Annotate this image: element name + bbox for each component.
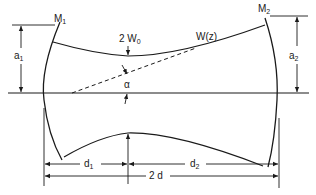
mirror-m1-label: M1	[54, 13, 66, 25]
resonator-diagram: M1 M2 a1 a2 2 W0 W(z) α d1 d2 2 d	[0, 0, 316, 195]
mirror-m2-label: M2	[258, 3, 270, 15]
waist-label: 2 W0	[119, 33, 141, 45]
beam-radius-label: W(z)	[196, 31, 217, 42]
beam-envelope-upper	[53, 25, 265, 56]
angle-arrow-upper	[122, 65, 127, 74]
a1-label: a1	[14, 50, 24, 62]
angle-alpha-label: α	[124, 79, 130, 90]
asymptote-line	[72, 48, 196, 93]
a2-label: a2	[289, 50, 299, 62]
d2-label: d2	[190, 158, 200, 170]
beam-envelope-lower	[64, 133, 263, 166]
angle-arrow-lower	[125, 94, 127, 104]
mirror-m1	[43, 22, 62, 160]
d1-label: d1	[84, 158, 94, 170]
total-length-label: 2 d	[149, 170, 163, 181]
